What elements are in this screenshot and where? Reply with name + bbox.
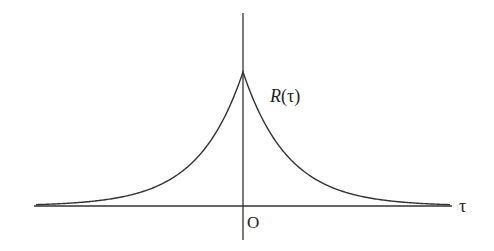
origin-label: O [247, 213, 259, 232]
curve-label-R: R [269, 86, 281, 106]
x-axis-label: τ [459, 196, 466, 216]
autocorrelation-chart: R(τ) O τ [0, 0, 494, 251]
curve-label: R(τ) [269, 86, 300, 107]
curve-label-arg: (τ) [281, 86, 300, 107]
